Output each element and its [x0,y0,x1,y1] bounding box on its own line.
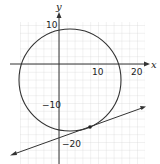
x-tick-20: 20 [131,67,143,77]
grid [20,22,145,164]
y-axis-label: y [55,1,62,12]
y-tick-neg10: −10 [42,100,61,110]
line-arrow-left-icon [10,151,17,156]
coordinate-plane: x y 10 20 10 −10 −20 [0,0,160,164]
y-tick-10: 10 [46,20,58,30]
x-axis-arrow-icon [144,62,150,67]
x-tick-10: 10 [92,67,104,77]
y-tick-neg20: −20 [62,139,81,149]
y-axis-arrow-icon [57,12,62,18]
x-axis-label: x [151,59,157,70]
point-of-tangency [88,125,92,129]
